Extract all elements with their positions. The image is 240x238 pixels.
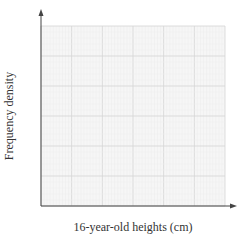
- x-axis-label: 16-year-old heights (cm): [73, 220, 192, 234]
- y-axis-label: Frequency density: [2, 72, 16, 160]
- grid: [41, 26, 225, 206]
- histogram-chart: 16-year-old heights (cm) Frequency densi…: [0, 0, 240, 238]
- x-axis-arrow-icon: [230, 204, 237, 209]
- y-axis-arrow-icon: [39, 9, 44, 16]
